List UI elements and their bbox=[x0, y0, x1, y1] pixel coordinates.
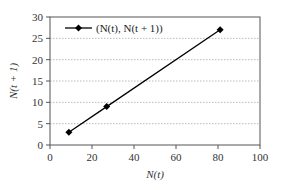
y-axis-title: N(t + 1) bbox=[7, 63, 20, 100]
x-tick-label: 40 bbox=[129, 151, 141, 163]
x-tick-label: 80 bbox=[213, 151, 225, 163]
x-axis-title: N(t) bbox=[145, 168, 164, 181]
y-tick-label: 15 bbox=[32, 75, 44, 87]
x-tick-label: 100 bbox=[252, 151, 269, 163]
y-tick-label: 30 bbox=[32, 11, 44, 23]
y-tick-label: 20 bbox=[32, 54, 44, 66]
y-tick-label: 5 bbox=[38, 118, 44, 130]
x-tick-label: 0 bbox=[47, 151, 53, 163]
data-point-marker bbox=[65, 129, 72, 136]
data-point-marker bbox=[103, 103, 110, 110]
x-tick-label: 60 bbox=[171, 151, 183, 163]
x-tick-label: 20 bbox=[87, 151, 99, 163]
y-tick-label: 10 bbox=[32, 96, 44, 108]
y-tick-label: 25 bbox=[32, 32, 44, 44]
chart-svg: 051015202530 020406080100 (N(t), N(t + 1… bbox=[0, 0, 285, 190]
legend-label: (N(t), N(t + 1)) bbox=[96, 22, 163, 35]
legend: (N(t), N(t + 1)) bbox=[65, 22, 163, 35]
y-axis-ticks: 051015202530 bbox=[32, 11, 50, 151]
x-axis-ticks: 020406080100 bbox=[47, 145, 269, 163]
gridlines bbox=[50, 38, 260, 123]
y-tick-label: 0 bbox=[38, 139, 44, 151]
data-point-marker bbox=[217, 26, 224, 33]
diamond-marker-icon bbox=[75, 25, 82, 32]
